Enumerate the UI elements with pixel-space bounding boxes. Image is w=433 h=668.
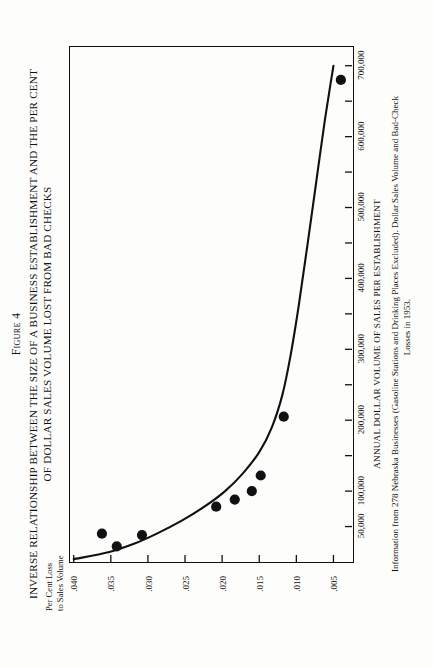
- caption-line1: Information from 278 Nebraska Businesses…: [390, 0, 402, 668]
- x-axis-label: ANNUAL DOLLAR VOLUME OF SALES PER ESTABL…: [372, 0, 382, 668]
- y-axis-label-line2: to Sales Volume: [55, 555, 66, 611]
- figure-caption: Information from 278 Nebraska Businesses…: [390, 0, 413, 668]
- y-axis-tick-label: .005: [329, 576, 339, 592]
- x-axis-tick-label: 600,000: [356, 121, 366, 150]
- y-axis-tick-labels: .040.035.030.025.020.015.010.005: [69, 568, 354, 668]
- y-axis-tick-label: .025: [181, 576, 191, 592]
- fit-curve: [74, 66, 334, 559]
- data-point: [279, 412, 289, 422]
- data-point: [97, 529, 107, 539]
- y-axis-tick-label: .035: [106, 576, 116, 592]
- figure-page: Figure 4 INVERSE RELATIONSHIP BETWEEN TH…: [0, 0, 433, 668]
- scatter-plot-svg: [70, 48, 352, 562]
- y-axis-label-line1: Per Cent Loss: [44, 555, 55, 611]
- x-axis-tick-labels: 50,000100,000200,000300,000400,000500,00…: [356, 46, 372, 563]
- data-point: [230, 495, 240, 505]
- plot-area: [69, 46, 354, 563]
- data-point: [112, 541, 122, 551]
- data-points: [97, 75, 346, 552]
- x-axis-tick-label: 300,000: [356, 334, 366, 363]
- x-axis-tick-label: 400,000: [356, 263, 366, 292]
- figure-title-line1: INVERSE RELATIONSHIP BETWEEN THE SIZE OF…: [26, 0, 40, 668]
- x-axis-minor-ticks: [345, 66, 352, 527]
- x-axis-tick-label: 500,000: [356, 192, 366, 221]
- y-axis-tick-label: .015: [255, 576, 265, 592]
- y-axis-tick-label: .020: [218, 576, 228, 592]
- y-axis-ticks: [74, 555, 334, 562]
- x-axis-tick-label: 200,000: [356, 405, 366, 434]
- data-point: [256, 470, 266, 480]
- y-axis-tick-label: .010: [292, 576, 302, 592]
- y-axis-tick-label: .030: [144, 576, 154, 592]
- data-point: [137, 530, 147, 540]
- figure-number-label: Figure 4: [10, 313, 22, 356]
- y-axis-tick-label: .040: [69, 576, 79, 592]
- x-axis-tick-label: 700,000: [356, 51, 366, 80]
- figure-number: Figure 4: [10, 0, 22, 668]
- x-axis-tick-label: 100,000: [356, 476, 366, 505]
- data-point: [247, 486, 257, 496]
- caption-line2: Losses in 1953.: [402, 0, 414, 668]
- data-point: [211, 502, 221, 512]
- y-axis-label: Per Cent Loss to Sales Volume: [44, 555, 65, 611]
- x-axis-tick-label: 50,000: [356, 514, 366, 539]
- data-point: [336, 75, 346, 85]
